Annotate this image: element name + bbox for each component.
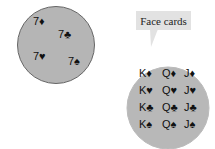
card-j-hearts: J♥ [184,85,196,96]
card-k-clubs: K♣ [139,102,154,113]
card-7-diamonds: 7♦ [33,16,45,27]
card-j-diamonds: J♦ [184,68,195,79]
sevens-set-circle [18,7,95,84]
card-7-spades: 7♠ [68,56,80,67]
face-cards-callout: Face cards [136,11,191,30]
callout-tail [150,29,158,47]
card-q-spades: Q♠ [162,119,176,130]
card-j-clubs: J♣ [184,102,197,113]
card-7-clubs: 7♣ [58,29,71,40]
card-k-spades: K♠ [139,119,152,130]
card-k-diamonds: K♦ [139,68,152,79]
card-q-clubs: Q♣ [162,102,178,113]
card-q-hearts: Q♥ [162,85,177,96]
card-sets-diagram: Face cards 7♦ 7♣ 7♥ 7♠ K♦ Q♦ J♦ K♥ Q♥ J♥… [0,0,215,149]
card-7-hearts: 7♥ [33,51,46,62]
card-q-diamonds: Q♦ [162,68,176,79]
card-k-hearts: K♥ [139,85,153,96]
card-j-spades: J♠ [184,119,195,130]
